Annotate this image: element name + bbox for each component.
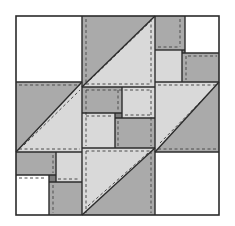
patch-bottom-left-light <box>56 152 82 182</box>
patch-center-gray-1 <box>82 87 122 113</box>
patch-bottom-left-gray-2 <box>49 182 82 215</box>
patch-bottom-left-dark <box>49 175 56 182</box>
patch-top-right-white <box>185 16 219 53</box>
patch-center-light-2 <box>82 113 115 148</box>
patch-bottom-left-gray <box>16 152 56 175</box>
quilt-block-diagram <box>0 0 235 226</box>
patch-center-dark <box>115 113 122 118</box>
patch-center-gray-2 <box>115 118 155 148</box>
patch-bottom-left-white <box>16 175 49 215</box>
patch-bottom-right-white <box>155 152 219 215</box>
patch-top-left-white <box>16 16 82 82</box>
patch-center-light-1 <box>122 87 155 118</box>
patch-top-right-light <box>155 50 182 82</box>
patch-top-right-gray-2 <box>182 53 219 82</box>
